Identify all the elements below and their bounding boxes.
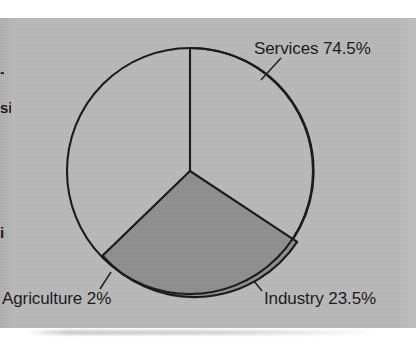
margin-text-fragment-lower: i- — [0, 225, 5, 240]
leader-line-industry — [254, 281, 262, 291]
scan-smudge-band — [26, 330, 378, 335]
margin-text-fragment-middle: si- — [0, 100, 11, 115]
scanned-page: Services 74.5% Agriculture 2% Industry 2… — [0, 0, 416, 346]
pie-label-industry: Industry 23.5% — [264, 290, 376, 307]
margin-text-fragment-top: - — [0, 64, 4, 79]
pie-label-agriculture: Agriculture 2% — [2, 290, 111, 307]
pie-label-services: Services 74.5% — [254, 40, 371, 57]
leader-line-agriculture — [100, 272, 111, 289]
